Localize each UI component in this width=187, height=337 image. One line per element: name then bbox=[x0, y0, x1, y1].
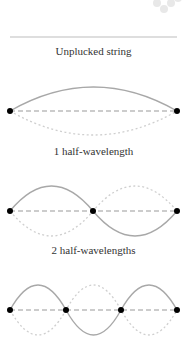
mode-1-solid-curve bbox=[10, 87, 177, 111]
node-dot bbox=[7, 208, 13, 214]
mode-1-wave bbox=[7, 87, 180, 135]
node-dot bbox=[174, 307, 180, 313]
node-dot bbox=[7, 108, 13, 114]
node-dot bbox=[174, 108, 180, 114]
mode-2-wave bbox=[7, 186, 180, 236]
unplucked-string-label: Unplucked string bbox=[0, 45, 187, 58]
mode-2-label: 2 half-wavelengths bbox=[0, 244, 187, 257]
node-dot bbox=[7, 307, 13, 313]
node-dot bbox=[90, 208, 96, 214]
watermark-dots-icon bbox=[153, 0, 182, 13]
node-dot bbox=[174, 208, 180, 214]
mode-1-dotted-curve bbox=[10, 111, 177, 135]
node-dot bbox=[118, 307, 124, 313]
mode-3-wave bbox=[7, 285, 180, 335]
mode-1-label: 1 half-wavelength bbox=[0, 145, 187, 158]
node-dot bbox=[63, 307, 69, 313]
